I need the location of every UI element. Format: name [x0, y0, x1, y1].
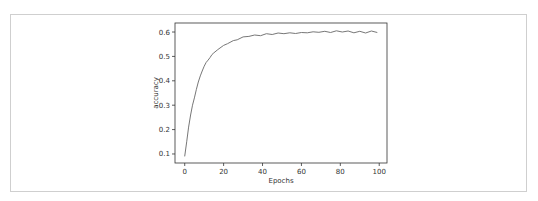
- y-tick-label: 0.5: [159, 53, 170, 61]
- x-tick-label: 0: [182, 168, 186, 176]
- y-axis-label: accuracy: [152, 77, 160, 109]
- plot-area: [175, 23, 387, 163]
- x-tick-label: 100: [373, 168, 386, 176]
- x-axis-ticks: 020406080100: [182, 163, 385, 176]
- x-tick-label: 20: [219, 168, 228, 176]
- x-axis-label: Epochs: [268, 177, 293, 185]
- x-tick-label: 60: [297, 168, 306, 176]
- y-tick-label: 0.1: [159, 150, 170, 158]
- x-tick-label: 40: [258, 168, 267, 176]
- y-tick-label: 0.2: [159, 126, 170, 134]
- accuracy-line-chart: 020406080100 0.10.20.30.40.50.6 Epochs a…: [0, 0, 538, 201]
- y-axis-ticks: 0.10.20.30.40.50.6: [159, 29, 175, 159]
- y-tick-label: 0.3: [159, 102, 170, 110]
- y-tick-label: 0.6: [159, 29, 171, 37]
- x-tick-label: 80: [336, 168, 345, 176]
- y-tick-label: 0.4: [159, 77, 171, 85]
